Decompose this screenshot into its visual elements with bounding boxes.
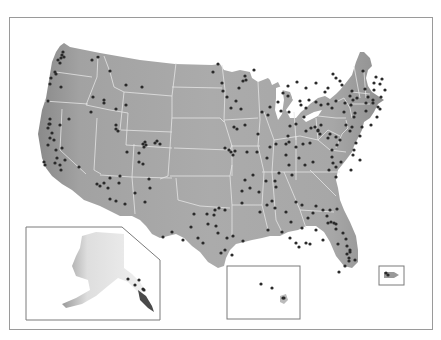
location-dot — [287, 110, 290, 113]
location-dot — [282, 296, 285, 299]
location-dot — [251, 173, 254, 176]
location-dot — [374, 75, 377, 78]
location-dot — [306, 216, 309, 219]
location-dot — [279, 109, 282, 112]
location-dot — [102, 181, 105, 184]
location-dot — [290, 173, 293, 176]
location-dot — [54, 148, 57, 151]
location-dot — [372, 88, 375, 91]
location-dot — [270, 286, 273, 289]
location-dot — [273, 206, 276, 209]
location-dot — [225, 95, 228, 98]
location-dot — [347, 256, 350, 259]
location-dot — [192, 212, 195, 215]
location-dot — [161, 235, 164, 238]
location-dot — [216, 231, 219, 234]
location-dot — [311, 160, 314, 163]
location-dot — [49, 76, 52, 79]
location-dot — [281, 91, 284, 94]
location-dot — [148, 186, 151, 189]
location-dot — [181, 238, 184, 241]
location-dot — [143, 200, 146, 203]
location-dot — [379, 95, 382, 98]
location-dot — [67, 117, 70, 120]
location-dot — [274, 142, 277, 145]
location-dot — [313, 125, 316, 128]
location-dot — [155, 139, 158, 142]
location-dot — [48, 117, 51, 120]
location-dot — [336, 242, 339, 245]
location-dot — [245, 150, 248, 153]
location-dot — [231, 153, 234, 156]
location-dot — [265, 203, 268, 206]
location-dot — [378, 82, 381, 85]
location-dot — [345, 244, 348, 247]
location-dot — [319, 123, 322, 126]
location-dot — [334, 175, 337, 178]
location-dot — [47, 122, 50, 125]
location-dot — [266, 228, 269, 231]
location-dot — [360, 125, 363, 128]
location-dot — [252, 68, 255, 71]
location-dot — [303, 163, 306, 166]
location-dot — [294, 241, 297, 244]
location-dot — [243, 74, 246, 77]
location-dot — [380, 77, 383, 80]
location-dot — [371, 101, 374, 104]
location-dot — [125, 150, 128, 153]
location-dot — [206, 222, 209, 225]
location-dot — [311, 211, 314, 214]
location-dot — [58, 123, 61, 126]
location-dot — [350, 89, 353, 92]
location-dot — [300, 203, 303, 206]
location-dot — [372, 81, 375, 84]
location-dot — [284, 210, 287, 213]
location-dot — [348, 250, 351, 253]
location-dot — [55, 156, 58, 159]
location-dot — [361, 69, 364, 72]
location-dot — [225, 236, 228, 239]
location-dot — [230, 253, 233, 256]
location-dot — [201, 241, 204, 244]
location-dot — [321, 238, 324, 241]
location-dot — [338, 79, 341, 82]
location-dot — [243, 123, 246, 126]
location-dot — [332, 221, 335, 224]
location-dot — [302, 115, 305, 118]
location-dot — [108, 69, 111, 72]
location-dot — [316, 129, 319, 132]
location-dot — [294, 145, 297, 148]
location-dot — [353, 111, 356, 114]
location-dot — [212, 213, 215, 216]
location-dot — [229, 150, 232, 153]
location-dot — [95, 182, 98, 185]
location-dot — [116, 129, 119, 132]
location-dot — [314, 228, 317, 231]
location-dot — [123, 202, 126, 205]
location-dot — [241, 239, 244, 242]
location-dot — [221, 89, 224, 92]
location-dot — [141, 162, 144, 165]
location-dot — [90, 58, 93, 61]
lake-huron — [292, 88, 306, 106]
location-dot — [257, 190, 260, 193]
location-dot — [189, 225, 192, 228]
location-dot — [295, 80, 298, 83]
location-dot — [309, 126, 312, 129]
location-dot — [288, 124, 291, 127]
location-dot — [334, 227, 337, 230]
location-dot — [371, 98, 374, 101]
location-dot — [223, 248, 226, 251]
location-dot — [294, 122, 297, 125]
location-dot — [328, 208, 331, 211]
location-dot — [143, 140, 146, 143]
location-dot — [329, 220, 332, 223]
location-dot — [334, 135, 337, 138]
location-dot — [54, 72, 57, 75]
location-dot — [50, 131, 53, 134]
location-dot — [219, 251, 222, 254]
location-dot — [378, 107, 381, 110]
location-dot — [244, 78, 247, 81]
location-dot — [325, 214, 328, 217]
location-dot — [274, 185, 277, 188]
